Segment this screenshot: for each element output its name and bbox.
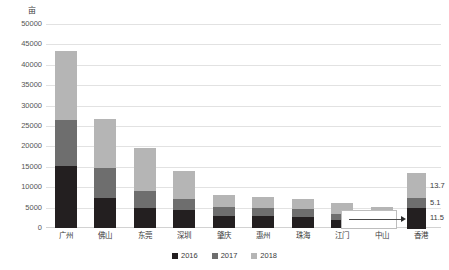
arrow-right-icon xyxy=(401,216,406,222)
y-axis-tick-label: 10000 xyxy=(0,183,42,191)
y-axis: 5000045000400003500030000250002000015000… xyxy=(0,24,42,228)
magnified-value-2016: 11.5 xyxy=(430,214,444,222)
legend-item-2016[interactable]: 2016 xyxy=(172,252,198,260)
bar-segment-2017[interactable] xyxy=(213,207,235,216)
bar-segment-2017[interactable] xyxy=(134,191,156,207)
bar-group[interactable] xyxy=(252,197,274,228)
callout-arrow-line xyxy=(349,219,402,220)
x-axis-tick-label: 惠州 xyxy=(244,230,284,242)
bar-segment-2018[interactable] xyxy=(55,51,77,120)
bars-layer xyxy=(46,24,441,228)
bar-segment-2016[interactable] xyxy=(213,216,235,228)
bar-segment-2017[interactable] xyxy=(55,120,77,166)
legend-item-2018[interactable]: 2018 xyxy=(251,252,277,260)
legend: 201620172018 xyxy=(0,252,449,260)
legend-label: 2016 xyxy=(181,252,198,260)
bar-segment-2017[interactable] xyxy=(173,199,195,210)
y-axis-tick-label: 45000 xyxy=(0,40,42,48)
bar-segment-2018[interactable] xyxy=(252,197,274,208)
legend-item-2017[interactable]: 2017 xyxy=(212,252,238,260)
x-axis: 广州佛山东莞深圳肇庆惠州珠海江门中山香港 xyxy=(46,230,441,244)
bar-group[interactable] xyxy=(173,171,195,228)
x-axis-tick-label: 珠海 xyxy=(283,230,323,242)
bar-group[interactable] xyxy=(94,119,116,228)
bar-segment-2018[interactable] xyxy=(94,119,116,168)
y-axis-tick-label: 40000 xyxy=(0,61,42,69)
bar-group[interactable] xyxy=(55,51,77,228)
y-axis-tick-label: 35000 xyxy=(0,81,42,89)
bar-segment-2016[interactable] xyxy=(173,210,195,228)
y-axis-tick-label: 50000 xyxy=(0,20,42,28)
plot-area xyxy=(46,24,441,228)
bar-segment-2016[interactable] xyxy=(292,217,314,228)
y-axis-unit-label: 亩 xyxy=(28,6,36,16)
bar-segment-2018[interactable] xyxy=(173,171,195,200)
y-axis-tick-label: 0 xyxy=(0,224,42,232)
bar-segment-2018[interactable] xyxy=(292,199,314,209)
x-axis-tick-label: 江门 xyxy=(323,230,363,242)
bar-segment-2017[interactable] xyxy=(292,209,314,217)
x-axis-tick-label: 广州 xyxy=(46,230,86,242)
magnified-segment-2016 xyxy=(407,208,426,229)
bar-group[interactable] xyxy=(134,148,156,228)
magnified-segment-2017 xyxy=(407,198,426,207)
x-axis-tick-label: 中山 xyxy=(362,230,402,242)
legend-swatch-icon xyxy=(251,253,257,259)
bar-segment-2016[interactable] xyxy=(55,166,77,228)
legend-label: 2017 xyxy=(221,252,238,260)
x-axis-tick-label: 肇庆 xyxy=(204,230,244,242)
y-axis-tick-label: 15000 xyxy=(0,163,42,171)
bar-segment-2018[interactable] xyxy=(134,148,156,191)
stacked-bar-chart: 亩 50000450004000035000300002500020000150… xyxy=(0,0,449,270)
bar-segment-2017[interactable] xyxy=(252,208,274,217)
x-axis-tick-label: 香港 xyxy=(402,230,442,242)
legend-swatch-icon xyxy=(212,253,218,259)
legend-label: 2018 xyxy=(260,252,277,260)
magnified-segment-2018 xyxy=(407,173,426,198)
x-axis-tick-label: 佛山 xyxy=(86,230,126,242)
y-axis-tick-label: 30000 xyxy=(0,102,42,110)
bar-segment-2017[interactable] xyxy=(94,168,116,199)
x-axis-tick-label: 深圳 xyxy=(165,230,205,242)
y-axis-tick-label: 25000 xyxy=(0,122,42,130)
y-axis-tick-label: 20000 xyxy=(0,142,42,150)
magnified-value-2017: 5.1 xyxy=(430,199,440,207)
magnified-value-2018: 13.7 xyxy=(430,182,445,190)
bar-segment-2016[interactable] xyxy=(134,208,156,228)
x-axis-tick-label: 东莞 xyxy=(125,230,165,242)
magnified-bar-hongkong xyxy=(407,173,426,229)
legend-swatch-icon xyxy=(172,253,178,259)
bar-group[interactable] xyxy=(213,195,235,228)
bar-segment-2016[interactable] xyxy=(94,198,116,228)
bar-segment-2016[interactable] xyxy=(252,216,274,228)
y-axis-tick-label: 5000 xyxy=(0,204,42,212)
bar-segment-2018[interactable] xyxy=(213,195,235,208)
bar-group[interactable] xyxy=(292,199,314,228)
